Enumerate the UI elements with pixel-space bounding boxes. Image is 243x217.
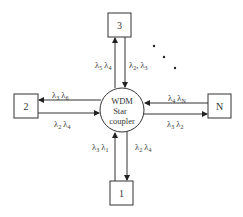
label-right-to-node: λ3 λ2: [167, 119, 183, 130]
wdm-star-diagram: WDM Star coupler 3 2 N 1 λ5 λ4 λ2, λ3 λ3…: [0, 0, 243, 217]
label-left-to-node: λ3 λ6: [52, 90, 68, 101]
label-top-down: λ2, λ3: [129, 60, 148, 71]
label-bottom-up: λ3 λ1: [92, 142, 108, 153]
node-2: 2: [14, 94, 38, 118]
ellipsis-dots: [153, 45, 176, 69]
node-1-label: 1: [119, 188, 124, 199]
label-right-from-node: λ4 λN: [168, 93, 186, 104]
label-top-up: λ5 λ4: [95, 60, 111, 71]
node-1: 1: [110, 181, 133, 205]
label-left-from-node: λ2 λ4: [54, 119, 70, 130]
node-n-label: N: [216, 101, 223, 112]
hub-line-3: coupler: [109, 116, 135, 126]
node-3-label: 3: [117, 20, 122, 31]
node-2-label: 2: [24, 101, 29, 112]
hub-line-1: WDM: [111, 96, 133, 106]
wdm-star-coupler: WDM Star coupler: [100, 88, 144, 132]
hub-line-2: Star: [113, 106, 127, 116]
node-3: 3: [108, 13, 131, 37]
node-n: N: [208, 94, 231, 118]
label-bottom-down: λ2 λ4: [135, 142, 151, 153]
